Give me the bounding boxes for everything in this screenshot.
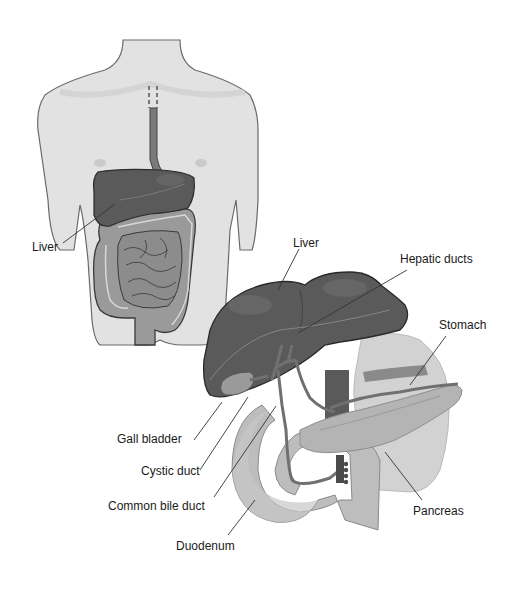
label-pancreas: Pancreas [413,504,464,518]
label-common-bile-duct: Common bile duct [108,499,205,513]
label-liver-torso: Liver [32,240,58,254]
torso-figure [38,40,258,345]
digestive-organs-detail [194,249,462,535]
label-gall-bladder: Gall bladder [117,432,182,446]
label-cystic-duct: Cystic duct [141,464,200,478]
label-liver-detail: Liver [293,236,319,250]
label-stomach: Stomach [439,318,486,332]
label-duodenum: Duodenum [176,539,235,553]
label-hepatic-ducts: Hepatic ducts [400,252,473,266]
anatomy-illustration [0,0,526,590]
